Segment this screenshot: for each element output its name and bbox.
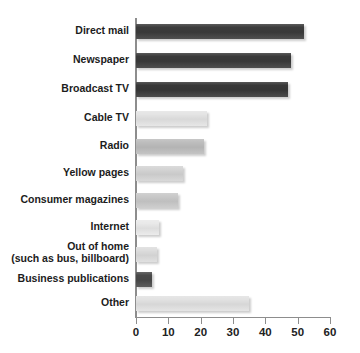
x-tick-50 [298,318,299,324]
x-tick-label-20: 20 [194,326,207,338]
x-tick-label-10: 10 [162,326,175,338]
x-tick-label-40: 40 [259,326,272,338]
category-label-line1: Internet [90,220,129,232]
bar-out-of-home [136,247,157,262]
category-label-line1: Yellow pages [63,166,129,178]
category-label: Consumer magazines [20,194,129,206]
bar-direct-mail [136,24,304,39]
bar-internet [136,220,159,235]
category-label: Other [101,297,129,309]
x-tick-0 [136,318,137,324]
bar-cable-tv [136,111,207,126]
bar-radio [136,139,204,154]
bar-consumer-magazines [136,193,178,208]
category-label-line1: Business publications [18,272,129,284]
category-label: Newspaper [73,54,129,66]
x-tick-label-50: 50 [291,326,304,338]
x-tick-20 [201,318,202,324]
x-tick-label-0: 0 [133,326,139,338]
category-label-line2: (such as bus, billboard) [11,253,129,265]
bar-broadcast-tv [136,82,288,97]
category-label-line1: Other [101,296,129,308]
category-label: Yellow pages [63,167,129,179]
x-tick-60 [330,318,331,324]
bar-newspaper [136,53,291,68]
x-tick-label-30: 30 [227,326,240,338]
category-label-line1: Radio [100,139,129,151]
x-tick-30 [233,318,234,324]
category-label: Internet [90,221,129,233]
category-label-line1: Broadcast TV [61,82,129,94]
bar-yellow-pages [136,166,183,181]
bar-business-publications [136,272,152,287]
category-label: Direct mail [75,25,129,37]
category-label: Broadcast TV [61,83,129,95]
x-tick-40 [265,318,266,324]
category-label-line1: Direct mail [75,24,129,36]
category-label: Cable TV [84,112,129,124]
category-label: Radio [100,140,129,152]
category-label-line1: Out of home [67,240,129,252]
bar-chart: 0102030405060 Direct mailNewspaperBroadc… [0,0,360,353]
category-label: Business publications [18,273,129,285]
x-tick-10 [168,318,169,324]
category-label-line1: Consumer magazines [20,193,129,205]
bar-other [136,296,249,311]
category-label-line1: Cable TV [84,111,129,123]
category-label: Out of home(such as bus, billboard) [11,241,129,264]
x-tick-label-60: 60 [324,326,337,338]
category-label-line1: Newspaper [73,53,129,65]
